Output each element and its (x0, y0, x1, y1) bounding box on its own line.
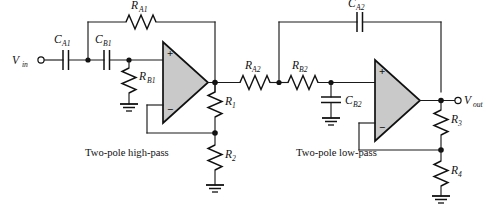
resistor-r2-subscript: 2 (232, 154, 236, 163)
ground-r4 (432, 196, 450, 203)
capacitor-ca2 (357, 12, 363, 32)
resistor-rb1-label: R (138, 70, 146, 82)
resistor-r4-label: R (450, 164, 458, 176)
resistor-ra2-label: R (244, 59, 252, 71)
capacitor-ca1-label: C (54, 33, 62, 45)
resistor-r4 (434, 161, 448, 186)
capacitor-ca2-label: C (348, 0, 356, 9)
capacitor-cb1-subscript: B1 (103, 39, 111, 48)
resistor-r1-subscript: 1 (232, 101, 236, 110)
caption-stage1: Two-pole high-pass (85, 147, 169, 158)
resistor-r2-label: R (224, 148, 232, 160)
resistor-ra2-subscript: A2 (251, 65, 261, 74)
resistor-r2 (208, 145, 222, 170)
resistor-ra2 (240, 76, 270, 90)
resistor-r3 (434, 110, 448, 135)
output-terminal (455, 97, 461, 103)
resistor-r3-label: R (450, 113, 458, 125)
opamp-u2-plus-input-sign: + (379, 65, 385, 77)
capacitor-cb1 (104, 50, 110, 70)
resistor-rb1-subscript: B1 (147, 76, 155, 85)
resistor-ra1-label: R (130, 0, 138, 11)
circuit-diagram: V in C A1 R A1 C B1 R B1 + − (0, 0, 486, 209)
capacitor-ca2-subscript: A2 (355, 3, 365, 12)
resistor-rb2 (288, 76, 318, 90)
capacitor-cb1-label: C (95, 33, 103, 45)
caption-stage2: Two-pole low-pass (296, 147, 377, 158)
input-label: V (12, 54, 21, 66)
output-label: V (464, 94, 473, 106)
input-terminal (38, 57, 44, 63)
resistor-r4-subscript: 4 (458, 170, 462, 179)
resistor-r1 (208, 92, 222, 117)
resistor-rb2-subscript: B2 (299, 65, 308, 74)
input-label-subscript: in (22, 60, 28, 69)
resistor-ra1 (126, 15, 156, 29)
output-label-subscript: out (473, 100, 484, 109)
opamp-u2-minus-input-sign: − (379, 121, 385, 133)
resistor-rb1 (122, 68, 136, 93)
capacitor-cb2-subscript: B2 (353, 100, 362, 109)
ground-r2 (206, 185, 224, 192)
capacitor-ca1-subscript: A1 (61, 39, 70, 48)
resistor-r1-label: R (224, 95, 232, 107)
capacitor-ca1 (63, 50, 69, 70)
resistor-r3-subscript: 3 (457, 119, 462, 128)
opamp-u1-minus-input-sign: − (167, 103, 173, 115)
ground-rb1 (120, 104, 138, 111)
capacitor-cb2 (321, 97, 341, 103)
resistor-rb2-label: R (291, 59, 299, 71)
opamp-u1-plus-input-sign: + (167, 47, 173, 59)
ground-cb2 (322, 118, 340, 125)
resistor-ra1-subscript: A1 (138, 5, 147, 14)
capacitor-cb2-label: C (345, 94, 353, 106)
